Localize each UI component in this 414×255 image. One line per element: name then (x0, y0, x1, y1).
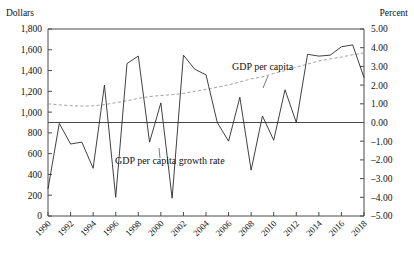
chart-container: Dollars Percent 02004006008001,0001,2001… (0, 0, 414, 255)
series-lines-group (48, 45, 364, 198)
x-tick-label: 2016 (327, 218, 347, 238)
right-axis-ticks: –5.00–4.00–3.00–2.00–1.000.001.002.003.0… (360, 24, 393, 221)
x-tick-label: 2018 (349, 218, 369, 238)
left-tick-label: 800 (28, 128, 43, 138)
x-tick-label: 2012 (281, 218, 301, 238)
right-tick-label: 3.00 (371, 62, 388, 72)
right-tick-label: –5.00 (370, 211, 393, 221)
series-line-gdp-per-capita (48, 53, 364, 106)
right-tick-label: –1.00 (370, 137, 393, 147)
left-tick-label: 600 (28, 149, 43, 159)
x-tick-label: 2004 (191, 218, 211, 238)
x-tick-label: 1998 (123, 218, 143, 238)
x-tick-label: 1996 (101, 218, 121, 238)
annotation-gdp-per-capita: GDP per capita (232, 61, 294, 72)
left-axis-title: Dollars (6, 8, 34, 18)
series-annotations-group: GDP per capitaGDP per capita growth rate (115, 61, 294, 166)
series-line-growth-rate (48, 45, 364, 198)
left-tick-label: 1,200 (21, 87, 43, 97)
x-tick-label: 2010 (259, 218, 279, 238)
right-tick-label: –2.00 (370, 155, 393, 165)
right-tick-label: 0.00 (371, 118, 388, 128)
x-tick-label: 1992 (56, 218, 76, 238)
x-tick-label: 1994 (78, 218, 98, 238)
right-tick-label: 1.00 (371, 99, 388, 109)
left-tick-label: 200 (28, 191, 43, 201)
left-tick-label: 0 (37, 211, 42, 221)
x-tick-label: 2002 (169, 218, 189, 238)
right-axis-title: Percent (380, 8, 409, 18)
right-tick-label: 2.00 (371, 81, 388, 91)
left-tick-label: 1,600 (21, 45, 43, 55)
x-tick-label: 2014 (304, 218, 324, 238)
x-tick-label: 2006 (214, 218, 234, 238)
x-tick-label: 1990 (33, 218, 53, 238)
annotation-growth-rate: GDP per capita growth rate (115, 155, 225, 166)
right-tick-label: 5.00 (371, 24, 388, 34)
dual-axis-line-chart: Dollars Percent 02004006008001,0001,2001… (0, 0, 414, 255)
right-tick-label: –3.00 (370, 174, 393, 184)
left-axis-ticks: 02004006008001,0001,2001,4001,6001,800 (21, 24, 52, 221)
right-tick-label: –4.00 (370, 193, 393, 203)
annotation-leader-gdp-per-capita (263, 76, 268, 88)
left-tick-label: 400 (28, 170, 43, 180)
axis-titles-group: Dollars Percent (6, 8, 408, 18)
x-tick-label: 2008 (236, 218, 256, 238)
x-tick-label: 2000 (146, 218, 166, 238)
left-tick-label: 1,000 (21, 108, 43, 118)
left-tick-label: 1,800 (21, 24, 43, 34)
right-tick-label: 4.00 (371, 43, 388, 53)
left-tick-label: 1,400 (21, 66, 43, 76)
